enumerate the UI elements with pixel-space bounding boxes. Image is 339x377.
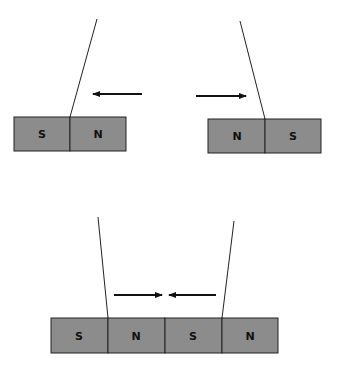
pole-label: N (232, 130, 241, 143)
pole-label: S (289, 130, 297, 143)
bottom-magnet-pair: S N S N (51, 217, 278, 353)
pole-label: S (189, 330, 197, 343)
suspension-string (222, 221, 234, 318)
magnet-diagram: S N N S S N S N (0, 0, 339, 377)
top-right-magnet-group: N S (196, 21, 321, 153)
suspension-string (240, 21, 265, 119)
pole-label: N (131, 330, 140, 343)
suspension-string (98, 217, 108, 318)
pole-label: N (93, 128, 102, 141)
pole-label: S (38, 128, 46, 141)
top-left-magnet-group: S N (14, 19, 142, 151)
suspension-string (70, 19, 97, 117)
pole-label: N (245, 330, 254, 343)
pole-label: S (75, 330, 83, 343)
